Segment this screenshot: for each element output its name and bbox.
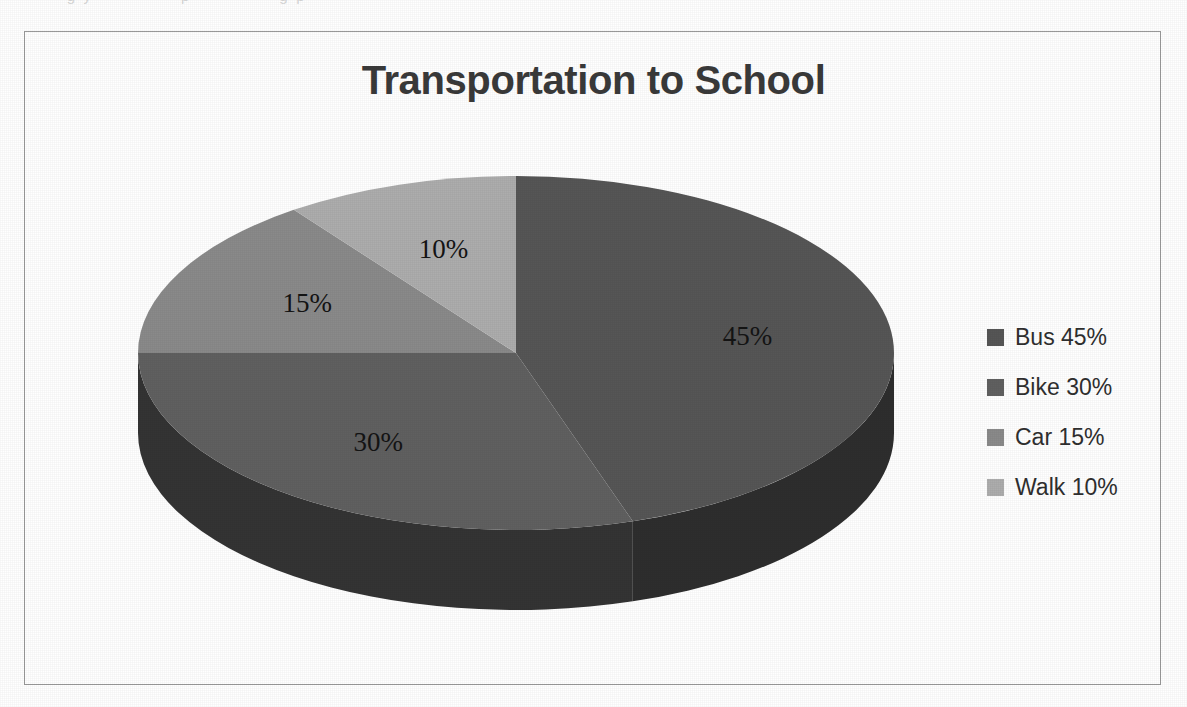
legend-item-car[interactable]: Car 15% <box>987 412 1157 462</box>
chart-legend: Bus 45% Bike 30% Car 15% Walk 10% <box>987 312 1157 512</box>
chart-frame: Transportation to School 45% 30% 15% 10% <box>24 31 1161 685</box>
legend-label-bike: Bike 30% <box>1015 374 1112 401</box>
legend-item-walk[interactable]: Walk 10% <box>987 462 1157 512</box>
pie-top-face <box>138 176 894 530</box>
chart-title: Transportation to School <box>25 58 1162 103</box>
pie-label-car: 15% <box>282 288 332 318</box>
scan-artifact-top-text: · · · g y · · · · · · p · · · · · · g p … <box>0 0 1187 5</box>
legend-item-bike[interactable]: Bike 30% <box>987 362 1157 412</box>
legend-swatch-bus <box>987 329 1004 346</box>
pie-label-walk: 10% <box>419 234 469 264</box>
legend-label-walk: Walk 10% <box>1015 474 1118 501</box>
pie-label-bike: 30% <box>353 427 403 457</box>
legend-label-car: Car 15% <box>1015 424 1104 451</box>
legend-swatch-walk <box>987 479 1004 496</box>
page-canvas: · · · g y · · · · · · p · · · · · · g p … <box>0 0 1187 707</box>
pie-label-bus: 45% <box>723 321 773 351</box>
legend-item-bus[interactable]: Bus 45% <box>987 312 1157 362</box>
pie-chart-svg: 45% 30% 15% 10% <box>136 176 896 611</box>
pie-chart: 45% 30% 15% 10% <box>136 176 896 611</box>
legend-swatch-car <box>987 429 1004 446</box>
legend-label-bus: Bus 45% <box>1015 324 1107 351</box>
legend-swatch-bike <box>987 379 1004 396</box>
